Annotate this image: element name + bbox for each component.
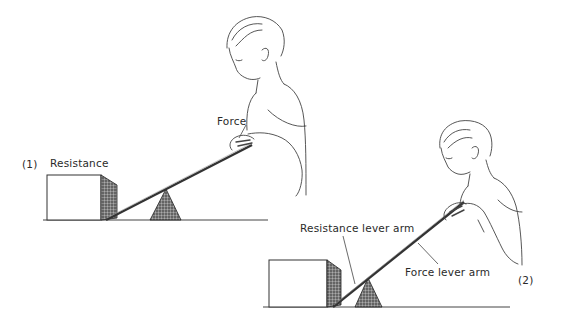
panel-2-number: (2) [518,274,533,286]
force-label: Force [217,115,246,127]
resistance-box-2-shade [327,260,341,307]
resistance-label: Resistance [50,157,109,169]
resistance-box-1-shade [101,175,117,220]
fulcrum-2 [355,278,382,307]
panel-1 [43,17,306,220]
resistance-lever-arm-leader [343,236,355,284]
lever-1 [106,145,252,220]
resistance-box-2 [269,260,327,307]
force-lever-arm-leader [418,243,438,264]
boy-figure-1 [227,17,306,196]
boy-figure-2 [440,121,522,265]
panel-2 [263,121,522,307]
resistance-lever-arm-label: Resistance lever arm [300,222,414,234]
force-lever-arm-label: Force lever arm [405,266,490,278]
resistance-box-1 [47,175,101,220]
panel-1-number: (1) [22,158,37,170]
